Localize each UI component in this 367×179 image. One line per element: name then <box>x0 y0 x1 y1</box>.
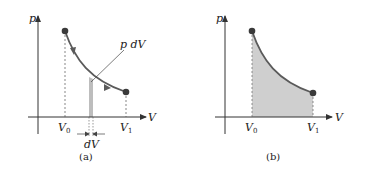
x-axis-label: V <box>148 111 157 124</box>
v0-label: V0 <box>58 121 70 135</box>
state-point-start <box>62 28 69 35</box>
pdv-leader <box>91 50 124 82</box>
v1-label: V1 <box>120 121 132 135</box>
process-curve <box>65 31 126 92</box>
work-area <box>252 31 313 117</box>
state-point-start <box>249 28 256 35</box>
v0-label: V0 <box>245 121 257 135</box>
state-point-end <box>123 89 130 96</box>
y-axis-label: p <box>216 12 223 25</box>
y-axis-label: p <box>29 12 36 25</box>
caption-b: (b) <box>266 151 280 162</box>
panel-a: p V V0 V1 p dV dV (a) <box>28 12 157 162</box>
v1-label: V1 <box>307 121 319 135</box>
dv-label: dV <box>84 138 100 151</box>
state-point-end <box>310 90 317 97</box>
caption-a: (a) <box>79 151 93 162</box>
pv-diagram: p V V0 V1 p dV dV (a) p V V0 V1 (b) <box>0 0 367 179</box>
x-axis-label: V <box>335 111 344 124</box>
pdv-annotation: p dV <box>120 38 147 51</box>
panel-b: p V V0 V1 (b) <box>215 12 344 162</box>
dv-strip <box>89 77 93 117</box>
